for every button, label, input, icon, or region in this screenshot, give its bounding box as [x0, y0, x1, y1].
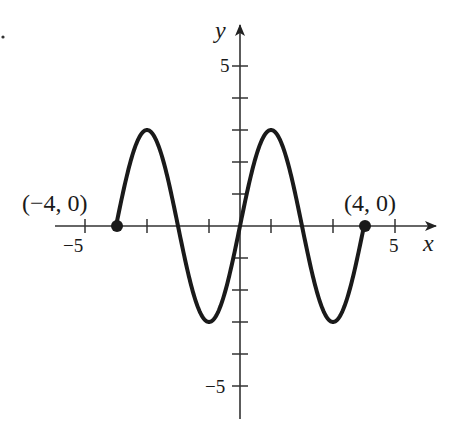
- point-label-right: (4, 0): [344, 190, 396, 216]
- y-axis-label: y: [213, 17, 226, 43]
- x-tick-label-neg5: −5: [63, 235, 83, 256]
- stray-dot: [1, 35, 4, 38]
- endpoint-left: [111, 220, 123, 232]
- endpoint-right: [359, 220, 371, 232]
- x-tick-label-5: 5: [389, 235, 399, 256]
- y-tick-label-5: 5: [220, 55, 230, 76]
- point-label-left: (−4, 0): [22, 190, 88, 216]
- function-graph: −5 5 5 −5 x y (−4, 0) (4, 0): [0, 0, 456, 447]
- y-tick-label-neg5: −5: [205, 376, 225, 397]
- x-axis-label: x: [422, 230, 434, 256]
